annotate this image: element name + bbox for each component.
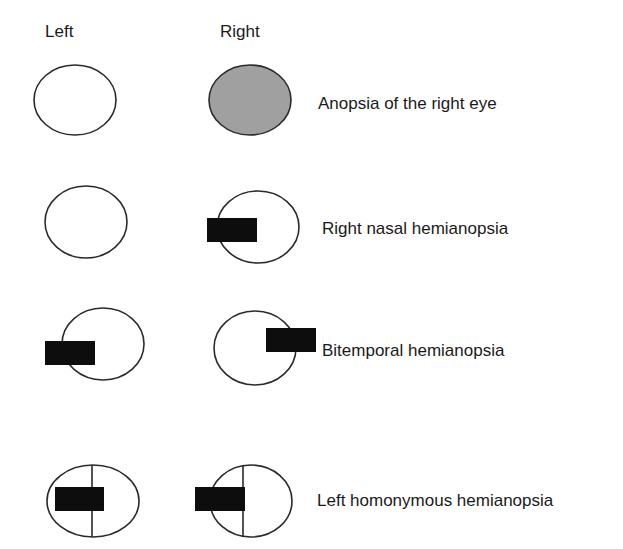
left-eye-temporal-defect-icon: [45, 341, 95, 365]
visual-field-defects-diagram: Left Right Anopsia of the right eye Righ…: [0, 0, 623, 549]
right-eye-blind-field-icon: [209, 65, 291, 135]
left-eye-field-icon: [34, 65, 116, 135]
left-eye-field-icon: [45, 186, 127, 258]
column-header-right: Right: [220, 22, 260, 41]
left-eye-left-half-defect-icon: [55, 487, 104, 511]
right-eye-temporal-defect-icon: [266, 328, 316, 352]
column-header-left: Left: [45, 22, 74, 41]
row-label: Anopsia of the right eye: [318, 94, 497, 113]
row-bitemporal-hemianopsia: Bitemporal hemianopsia: [45, 308, 505, 385]
row-label: Left homonymous hemianopsia: [317, 491, 554, 510]
row-left-homonymous-hemianopsia: Left homonymous hemianopsia: [47, 465, 554, 537]
row-right-nasal-hemianopsia: Right nasal hemianopsia: [45, 186, 509, 263]
row-anopsia-right-eye: Anopsia of the right eye: [34, 65, 497, 135]
row-label: Right nasal hemianopsia: [322, 219, 509, 238]
row-label: Bitemporal hemianopsia: [322, 341, 505, 360]
right-eye-nasal-defect-icon: [207, 218, 257, 242]
right-eye-left-half-defect-icon: [195, 487, 245, 511]
